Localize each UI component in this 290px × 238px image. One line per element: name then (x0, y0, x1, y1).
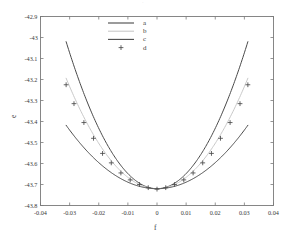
series-line-a (66, 42, 248, 189)
y-tick-label: -43.1 (25, 55, 38, 62)
x-tick-label: -0.01 (121, 209, 134, 216)
y-tick-label: -42.9 (25, 13, 38, 20)
y-tick-label: -43.4 (25, 118, 38, 125)
legend-marker-d (119, 45, 124, 50)
y-tick-label: -43.3 (25, 97, 38, 104)
legend-label-d: d (143, 44, 147, 52)
plot-frame (41, 17, 274, 206)
axis-ticks (41, 17, 274, 206)
x-tick-label: 0.01 (181, 209, 192, 216)
legend-label-c: c (143, 35, 146, 43)
legend-label-a: a (143, 19, 146, 27)
y-axis-label: e (9, 115, 18, 118)
y-tick-label: -43.8 (25, 202, 38, 209)
x-axis-label: f (154, 223, 157, 232)
series-markers-d (64, 82, 251, 191)
x-tick-label: 0.03 (239, 209, 250, 216)
y-tick-label: -43.2 (25, 76, 38, 83)
x-tick-label: -0.03 (63, 209, 76, 216)
x-tick-label: 0.02 (210, 209, 221, 216)
x-tick-label: 0.04 (268, 209, 279, 216)
figure-canvas: · -0.04-0.03-0.02-0.0100.010.020.030.04-… (0, 0, 290, 238)
x-tick-label: -0.02 (92, 209, 105, 216)
x-tick-label: 0 (156, 209, 159, 216)
y-tick-label: -43 (30, 34, 38, 41)
y-tick-label: -43.7 (25, 181, 38, 188)
series-line-b (66, 78, 248, 188)
y-tick-label: -43.5 (25, 139, 38, 146)
y-tick-label: -43.6 (25, 160, 38, 167)
legend-label-b: b (143, 27, 147, 35)
x-tick-label: -0.04 (34, 209, 47, 216)
